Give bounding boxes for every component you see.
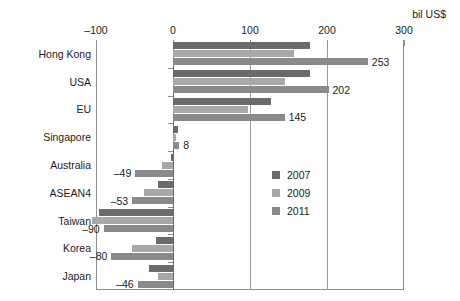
bar — [92, 217, 173, 224]
bar — [132, 197, 173, 204]
gridline — [327, 41, 328, 290]
bar-value-label: –90 — [82, 223, 100, 235]
legend: 2007 2009 2011 — [272, 166, 310, 220]
bar — [173, 86, 329, 93]
bar — [158, 273, 173, 280]
row-tick-mark — [168, 151, 173, 152]
bar — [171, 154, 173, 161]
bar — [132, 245, 173, 252]
row-tick-mark — [168, 207, 173, 208]
category-label: Hong Kong — [38, 48, 91, 60]
bar-value-label: 145 — [289, 111, 307, 123]
bar-value-label: 253 — [372, 56, 390, 68]
legend-item-label: 2011 — [287, 206, 310, 217]
bar-value-label: –53 — [111, 195, 129, 207]
bar — [173, 42, 310, 49]
bar-value-label: –46 — [116, 278, 134, 290]
bar-value-label: 202 — [333, 84, 351, 96]
x-axis-tick-label: –100 — [84, 24, 107, 36]
bar — [135, 170, 173, 177]
x-axis-tick-label: 100 — [241, 24, 259, 36]
bar — [138, 281, 173, 288]
legend-item: 2011 — [272, 202, 310, 220]
row-tick-mark — [168, 179, 173, 180]
legend-swatch-icon — [272, 189, 280, 197]
bar — [156, 237, 173, 244]
row-tick-mark — [168, 68, 173, 69]
bar — [173, 126, 178, 133]
category-label: USA — [69, 76, 91, 88]
bar-value-label: 8 — [183, 139, 189, 151]
category-label: Japan — [62, 270, 91, 282]
bar — [162, 162, 173, 169]
row-tick-mark — [168, 123, 173, 124]
legend-item: 2007 — [272, 166, 310, 184]
x-axis-tick-label: 300 — [395, 24, 413, 36]
bar — [99, 209, 173, 216]
category-label: Korea — [63, 242, 91, 254]
legend-item-label: 2009 — [287, 188, 310, 199]
bar-value-label: –49 — [114, 167, 132, 179]
x-axis-tick — [404, 40, 405, 46]
row-tick-mark — [168, 262, 173, 263]
category-label: ASEAN4 — [50, 187, 91, 199]
x-axis-tick-label: 200 — [318, 24, 336, 36]
bar — [173, 78, 285, 85]
legend-swatch-icon — [272, 207, 280, 215]
category-label: Australia — [50, 159, 91, 171]
bar — [173, 58, 368, 65]
legend-item: 2009 — [272, 184, 310, 202]
bar — [173, 142, 179, 149]
bar — [104, 225, 173, 232]
legend-item-label: 2007 — [287, 170, 310, 181]
bar — [173, 70, 310, 77]
x-axis-tick — [327, 40, 328, 46]
legend-swatch-icon — [272, 171, 280, 179]
bar — [111, 253, 173, 260]
bar — [158, 181, 173, 188]
x-axis-tick — [96, 40, 97, 46]
bar — [173, 114, 285, 121]
category-label: EU — [76, 103, 91, 115]
units-label: bil US$ — [412, 8, 446, 20]
row-tick-mark — [168, 234, 173, 235]
category-label: Singapore — [43, 131, 91, 143]
bar — [173, 106, 248, 113]
x-axis-tick-label: 0 — [170, 24, 176, 36]
bar — [173, 98, 271, 105]
bar — [173, 134, 176, 141]
bar — [149, 265, 173, 272]
bar — [173, 50, 294, 57]
bar-value-label: –80 — [90, 250, 108, 262]
horizontal-bar-chart: bil US$ –1000100200300 Hong KongUSAEUSin… — [0, 0, 460, 301]
row-tick-mark — [168, 96, 173, 97]
bar — [144, 189, 173, 196]
